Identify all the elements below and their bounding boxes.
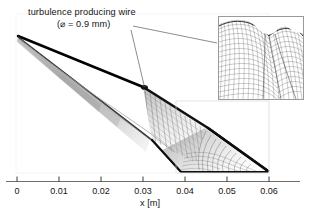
mesh-grid	[219, 17, 303, 99]
boundary-layer-region	[16, 36, 150, 152]
x-axis-ticks	[17, 177, 269, 182]
x-tick-label-0: 0	[14, 186, 19, 196]
leader-line-wire	[131, 30, 144, 85]
wire-label-line-1: turbulence producing wire	[28, 7, 136, 19]
x-axis	[6, 177, 300, 182]
x-tick-label-6: 0.06	[260, 186, 278, 196]
computational-mesh-inset	[218, 16, 304, 100]
x-tick-label-4: 0.04	[176, 186, 194, 196]
schlieren-figure: turbulence producing wire (⌀ = 0.9 mm) 0…	[0, 0, 310, 214]
leader-line-inset	[133, 26, 217, 43]
mesh-lines	[219, 20, 303, 99]
x-axis-title: x [m]	[140, 198, 160, 208]
x-tick-label-1: 0.01	[50, 186, 68, 196]
wire-label-line-2: (⌀ = 0.9 mm)	[57, 19, 110, 31]
x-tick-label-5: 0.05	[218, 186, 236, 196]
x-tick-label-2: 0.02	[92, 186, 110, 196]
x-tick-label-3: 0.03	[134, 186, 152, 196]
